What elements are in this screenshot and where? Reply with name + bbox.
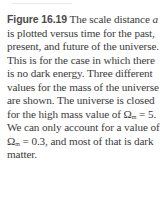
variable-a: a xyxy=(152,13,158,25)
caption-text-4: = 0.3, and most of that is dark matter. xyxy=(7,135,153,161)
caption-text-2: is plotted versus time for the past, pre… xyxy=(7,27,159,120)
omega-symbol: Ω xyxy=(7,135,15,147)
top-rule xyxy=(12,3,72,4)
figure-caption: Figure 16.19 The scale dis­tance a is pl… xyxy=(7,13,161,162)
figure-label: Figure 16.19 xyxy=(7,13,67,25)
caption-text-1: The scale dis­tance xyxy=(67,13,152,25)
omega-symbol: Ω xyxy=(124,108,132,120)
